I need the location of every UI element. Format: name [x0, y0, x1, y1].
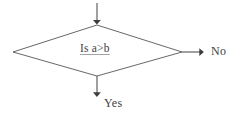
no-branch-label: No: [211, 45, 226, 57]
decision-label: Is a>b: [80, 43, 110, 55]
yes-branch-label: Yes: [104, 97, 122, 109]
flowchart-canvas: Is a>b No Yes: [0, 0, 241, 118]
